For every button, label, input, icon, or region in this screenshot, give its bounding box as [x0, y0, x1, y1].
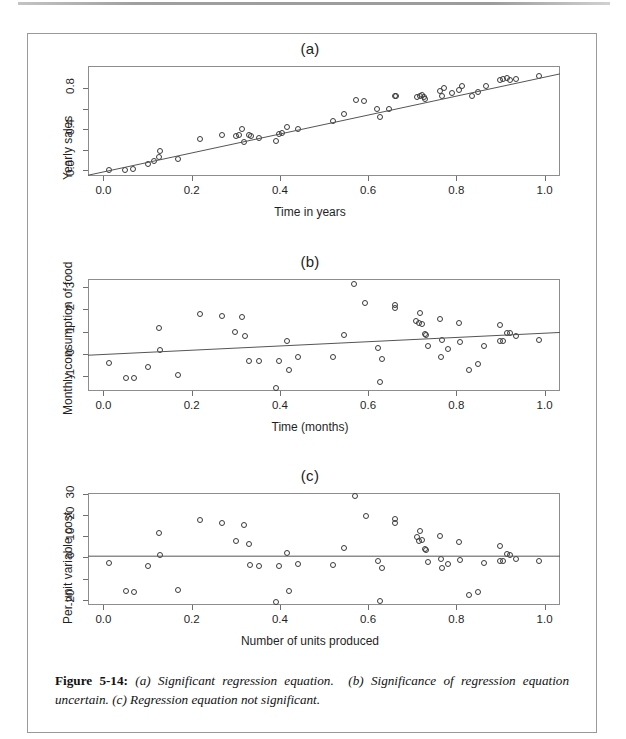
panel-a-x-tick-label: 0.8 [434, 184, 478, 196]
panel-a-x-tick-label: 0.0 [81, 184, 125, 196]
panel-a-x-tick-label: 0.2 [170, 184, 214, 196]
panel-c-x-tick [103, 605, 104, 610]
regression-line [88, 493, 560, 605]
panel-b-x-tick-label: 0.6 [346, 399, 390, 411]
panel-b-x-tick [456, 391, 457, 396]
regression-line [88, 66, 560, 176]
panel-c-x-tick [545, 605, 546, 610]
panel-c-y-tick-label: 30 [64, 472, 76, 512]
panel-c-x-tick-label: 0.8 [434, 613, 478, 625]
figure-caption: Figure 5-14: (a) Significant regression … [55, 672, 569, 709]
panel-c-x-axis-title: Number of units produced [55, 634, 565, 648]
figure-caption-label: Figure 5-14 [55, 673, 124, 688]
panel-b-x-tick [103, 391, 104, 396]
panel-a-x-tick-label: 1.0 [523, 184, 567, 196]
panel-c-x-tick [192, 605, 193, 610]
panel-b-x-tick [280, 391, 281, 396]
panel-a-x-tick-label: 0.6 [346, 184, 390, 196]
panel-a-x-axis-title: Time in years [55, 205, 565, 219]
panel-c-x-tick-label: 0.4 [258, 613, 302, 625]
figure-caption-a: (a) Significant regression equation. [135, 673, 333, 688]
figure-page: (a) Yearly sales Time in years 0.00.20.4… [0, 0, 626, 739]
panel-b-x-tick-label: 0.0 [81, 399, 125, 411]
panel-a-y-tick-label: 0.4 [64, 107, 76, 147]
panel-a-y-tick-label: 0.8 [64, 66, 76, 106]
figure-caption-sep: : [124, 673, 128, 688]
panel-c-x-tick-label: 1.0 [523, 613, 567, 625]
panel-a-x-tick [192, 176, 193, 181]
regression-line [88, 279, 560, 391]
panel-a-x-tick [280, 176, 281, 181]
panel-a-x-tick [456, 176, 457, 181]
figure-caption-c: (c) Regression equation not significant. [112, 692, 320, 707]
panel-c-y-tick-label: -20 [64, 578, 76, 618]
panel-b-x-tick-label: 0.8 [434, 399, 478, 411]
panel-c-x-tick [456, 605, 457, 610]
panel-c-title: (c) [55, 467, 565, 484]
panel-b-x-axis-title: Time (months) [55, 420, 565, 434]
panel-b: (b) Monthly consumption of food Time (mo… [55, 253, 565, 443]
panel-b-x-tick-label: 1.0 [523, 399, 567, 411]
panel-b-x-tick [368, 391, 369, 396]
panel-a-x-tick-label: 0.4 [258, 184, 302, 196]
panel-b-x-tick [192, 391, 193, 396]
panel-a-x-tick [103, 176, 104, 181]
panel-a: (a) Yearly sales Time in years 0.00.20.4… [55, 40, 565, 225]
panel-c: (c) Per unit variable cost Number of uni… [55, 467, 565, 657]
panel-b-x-tick-label: 0.4 [258, 399, 302, 411]
page-top-rule [18, 2, 610, 5]
panel-a-title: (a) [55, 40, 565, 57]
panel-c-x-tick-label: 0.2 [170, 613, 214, 625]
panel-b-y-tick-label: 3 [64, 265, 76, 305]
panel-a-x-tick [368, 176, 369, 181]
panel-c-x-tick [368, 605, 369, 610]
panel-b-x-tick-label: 0.2 [170, 399, 214, 411]
panel-a-y-tick-label: 0.0 [64, 148, 76, 188]
panel-c-x-tick-label: 0.0 [81, 613, 125, 625]
panel-b-title: (b) [55, 253, 565, 270]
panel-b-x-tick [545, 391, 546, 396]
panel-c-x-tick [280, 605, 281, 610]
panel-c-x-tick-label: 0.6 [346, 613, 390, 625]
panel-a-x-tick [545, 176, 546, 181]
